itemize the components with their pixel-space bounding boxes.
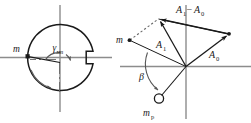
beta-angle-arc	[145, 53, 158, 91]
label-unbalance-mass: m	[13, 44, 20, 54]
trial-mass-circle	[154, 94, 163, 103]
label-a1-base: A	[155, 39, 163, 50]
label-trial-mass-base: m	[143, 108, 150, 118]
label-vector-a0: A 0	[208, 49, 219, 62]
rotation-direction-arrow	[31, 70, 51, 88]
label-a0-base: A	[208, 49, 216, 60]
m-point-marker	[128, 38, 132, 42]
label-vector-difference: A 1 − A 0	[175, 4, 204, 17]
vector-a1	[161, 22, 187, 67]
figure-root: m γ m	[0, 0, 251, 123]
label-trial-mass: m p	[143, 108, 154, 120]
dashed-construction-line	[130, 20, 157, 40]
label-gamma-subscript: m	[59, 48, 64, 55]
label-beta-angle: β	[138, 71, 144, 82]
vector-a1-minus-a0	[162, 20, 230, 35]
vector-a0	[186, 36, 227, 67]
label-gamma: γ	[53, 43, 57, 53]
label-trial-mass-subscript: p	[151, 113, 154, 120]
trial-mass-radius-line	[162, 67, 187, 96]
label-vector-a1: A 1	[155, 39, 166, 52]
axis-lines	[0, 5, 251, 119]
label-diff-minus: −	[187, 4, 193, 15]
rotor-cross-section	[26, 24, 94, 92]
label-diff-a1: A	[175, 4, 183, 15]
label-diff-a0-subscript: 0	[201, 10, 204, 17]
figure-canvas: m γ m	[0, 0, 251, 123]
label-m-point: m	[116, 35, 123, 45]
a0-tip-marker	[227, 32, 231, 36]
label-a0-subscript: 0	[216, 55, 219, 62]
label-diff-a0: A	[193, 4, 201, 15]
label-a1-subscript: 1	[163, 45, 166, 52]
